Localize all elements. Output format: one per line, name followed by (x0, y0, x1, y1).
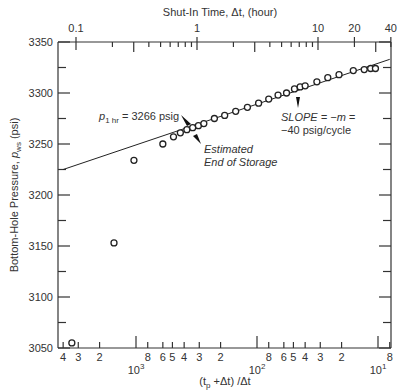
y-tick-label: 3150 (29, 240, 53, 252)
data-point (222, 112, 228, 118)
storage-annotation-line2: End of Storage (204, 156, 277, 168)
p1hr-annotation: p1 hr = 3266 psig (98, 110, 179, 125)
x-bottom-tick-label: 2 (97, 351, 103, 363)
data-point (284, 90, 290, 96)
data-points (69, 66, 379, 346)
x-bottom-tick-label: 8 (266, 351, 272, 363)
x-bottom-decade-label: 102 (249, 362, 266, 376)
data-point (314, 79, 320, 85)
x-bottom-tick-label: 6 (281, 351, 287, 363)
y-tick-label: 3050 (29, 342, 53, 354)
x-top-tick-label: 40 (385, 22, 397, 34)
data-point (361, 67, 367, 73)
y-tick-label: 3250 (29, 138, 53, 150)
x-bottom-tick-label: 2 (218, 351, 224, 363)
x-bottom-tick-label: 4 (60, 351, 66, 363)
x-bottom-tick-label: 5 (169, 351, 175, 363)
slope-annotation-line2: −40 psig/cycle (281, 124, 351, 136)
slope-annotation-line1: SLOPE = −m = (281, 111, 356, 123)
horner-plot: 3050310031503200325033003350 43286543286… (0, 0, 405, 391)
data-point (244, 104, 250, 110)
y-ticks: 3050310031503200325033003350 (29, 36, 391, 354)
x-top-tick-label: 0.1 (68, 22, 83, 34)
x-bottom-tick-label: 8 (387, 351, 393, 363)
x-bottom-tick-label: 3 (196, 351, 202, 363)
data-point (233, 108, 239, 114)
x-top-tick-label: 1 (194, 22, 200, 34)
x-bottom-tick-label: 3 (317, 351, 323, 363)
data-point (302, 83, 308, 89)
x-bottom-tick-label: 4 (181, 351, 187, 363)
x-bottom-tick-label: 6 (160, 351, 166, 363)
data-point (184, 127, 190, 133)
p1hr-arrow-icon (181, 115, 191, 126)
x-bottom-tick-label: 2 (339, 351, 345, 363)
y-tick-label: 3350 (29, 36, 53, 48)
data-point (131, 157, 137, 163)
data-point (336, 72, 342, 78)
x-bottom-tick-label: 4 (302, 351, 308, 363)
x-top-ticks: 0.11102040 (68, 22, 397, 52)
data-point (372, 66, 378, 72)
data-point (211, 116, 217, 122)
top-axis-title: Shut-In Time, Δt, (hour) (163, 6, 277, 18)
data-point (266, 96, 272, 102)
storage-arrow-icon (193, 134, 201, 144)
storage-annotation-line1: Estimated (204, 143, 254, 155)
x-bottom-tick-label: 3 (75, 351, 81, 363)
data-point (160, 141, 166, 147)
bottom-axis-title: (tp +Δt) /Δt (199, 375, 250, 390)
data-point (256, 100, 262, 106)
x-bottom-decade-label: 101 (370, 362, 387, 376)
y-tick-label: 3100 (29, 291, 53, 303)
x-bottom-ticks: 4328654328654328103102101 (60, 336, 393, 376)
data-point (69, 340, 75, 346)
x-bottom-tick-label: 5 (290, 351, 296, 363)
x-bottom-tick-label: 8 (145, 351, 151, 363)
data-point (201, 121, 207, 127)
y-tick-label: 3200 (29, 189, 53, 201)
y-axis-title: Bottom-Hole Pressure, pws (psi) (8, 118, 23, 273)
slope-arrow-icon (296, 97, 300, 108)
data-point (350, 68, 356, 74)
data-point (177, 130, 183, 136)
data-point (275, 92, 281, 98)
data-point (170, 134, 176, 140)
x-bottom-decade-label: 103 (128, 362, 145, 376)
x-top-tick-label: 20 (348, 22, 360, 34)
plot-frame (58, 42, 391, 348)
y-tick-label: 3300 (29, 87, 53, 99)
data-point (325, 75, 331, 81)
data-point (111, 240, 117, 246)
x-top-tick-label: 10 (312, 22, 324, 34)
